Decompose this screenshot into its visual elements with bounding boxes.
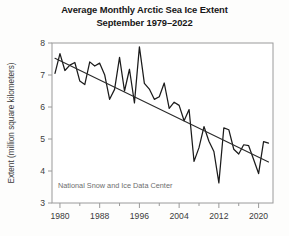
x-tick-label: 2012: [209, 211, 228, 221]
source-credit: National Snow and Ice Data Center: [58, 181, 173, 190]
x-axis-ticks: 198019881996200420122020: [50, 203, 268, 221]
x-tick-label: 2004: [170, 211, 189, 221]
y-tick-label: 6: [40, 102, 45, 112]
y-tick-label: 3: [40, 198, 45, 208]
y-tick-label: 5: [40, 134, 45, 144]
y-tick-label: 4: [40, 166, 45, 176]
chart-plot: 345678 198019881996200420122020 Extent (…: [0, 0, 289, 236]
x-tick-label: 1980: [50, 211, 69, 221]
x-tick-label: 1996: [130, 211, 149, 221]
y-axis-ticks: 345678: [40, 38, 52, 208]
plot-frame: [52, 43, 273, 203]
y-tick-label: 8: [40, 38, 45, 48]
x-tick-label: 2020: [249, 211, 268, 221]
y-tick-label: 7: [40, 70, 45, 80]
x-tick-label: 1988: [90, 211, 109, 221]
plot-area-border: [52, 43, 273, 203]
y-axis-label: Extent (million square kilometers): [7, 62, 16, 183]
figure-container: Average Monthly Arctic Sea Ice Extent Se…: [0, 0, 289, 236]
